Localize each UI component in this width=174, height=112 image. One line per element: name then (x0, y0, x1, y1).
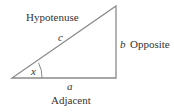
adjacent-symbol: a (67, 80, 73, 92)
hypotenuse-symbol: c (58, 31, 63, 43)
adjacent-label: Adjacent (51, 94, 91, 106)
opposite-label: Opposite (130, 38, 170, 50)
angle-arc (39, 63, 43, 78)
right-triangle-diagram: Hypotenuse c b Opposite x a Adjacent (0, 0, 174, 112)
angle-symbol: x (30, 65, 36, 77)
hypotenuse-label: Hypotenuse (26, 11, 79, 23)
opposite-symbol: b (120, 38, 126, 50)
